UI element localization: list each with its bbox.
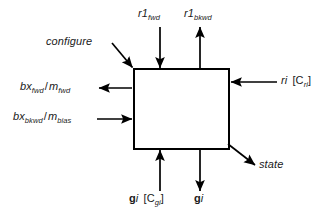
label-state: state [259, 159, 283, 170]
block-diagram: configure r1fwd r1bkwd ri [Cri] bxfwd/mf… [0, 0, 335, 220]
label-bx-bkwd-m-bias: bxbkwd/mbias [13, 111, 71, 122]
central-block [134, 69, 229, 149]
label-ri-cri: ri [Cri] [281, 75, 311, 86]
label-r1-bkwd: r1bkwd [184, 8, 212, 19]
label-r1-fwd: r1fwd [138, 8, 160, 19]
signal-line-configure [112, 43, 133, 68]
label-configure: configure [46, 36, 92, 47]
label-bx-fwd-m-fwd: bxfwd/mfwd [20, 81, 70, 92]
label-gi-cgi: gi [Cgi] [129, 193, 164, 204]
signal-line-state [228, 144, 255, 165]
label-gi: gi [194, 193, 203, 204]
